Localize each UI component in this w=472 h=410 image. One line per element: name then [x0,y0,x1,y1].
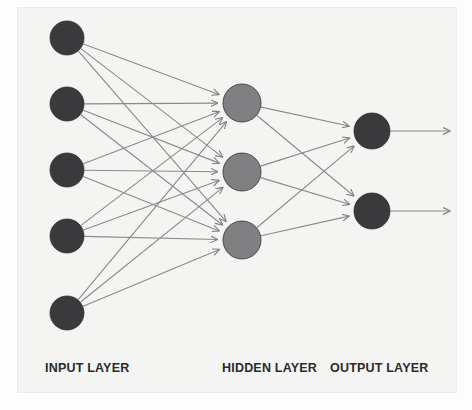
edge-hidden-1-to-output-2 [257,115,354,196]
edge-hidden-2-to-output-1 [261,138,350,166]
node-hidden-2 [223,153,261,191]
node-input-3 [50,153,84,187]
layer-label-hidden: HIDDEN LAYER [222,362,317,375]
edge-hidden-3-to-output-2 [261,216,349,236]
node-hidden-3 [223,221,261,259]
node-input-4 [50,219,84,253]
node-output-2 [354,193,390,229]
edge-hidden-1-to-output-1 [261,107,349,126]
edge-input-1-to-hidden-3 [78,51,225,221]
layer-label-input: INPUT LAYER [45,362,129,375]
node-output-1 [354,113,390,149]
layer-label-output: OUTPUT LAYER [330,362,428,375]
node-hidden-1 [223,84,261,122]
node-input-1 [50,21,84,55]
edge-group [78,44,450,306]
network-graph [0,0,472,410]
edge-input-2-to-hidden-1 [84,103,217,104]
node-group [50,21,390,330]
edge-input-5-to-hidden-3 [83,249,219,306]
node-input-5 [50,296,84,330]
neural-network-figure: INPUT LAYER HIDDEN LAYER OUTPUT LAYER [0,0,472,410]
edge-input-3-to-hidden-1 [83,112,219,164]
edge-hidden-3-to-output-1 [257,146,354,227]
edge-input-1-to-hidden-1 [83,44,219,94]
edge-input-4-to-hidden-3 [84,236,217,239]
node-input-2 [50,87,84,121]
